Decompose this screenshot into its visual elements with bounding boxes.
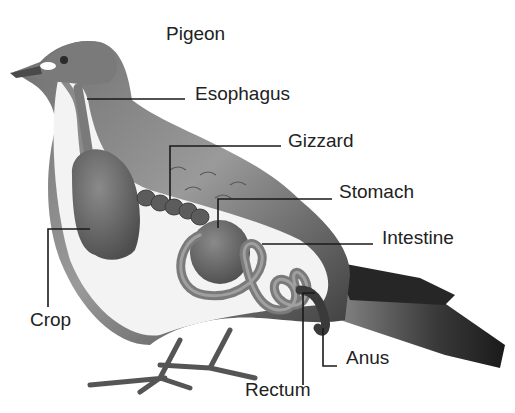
label-gizzard: Gizzard — [288, 131, 353, 150]
label-anus: Anus — [346, 348, 389, 367]
label-stomach: Stomach — [339, 182, 414, 201]
diagram-title: Pigeon — [166, 24, 225, 43]
pigeon-digestive-diagram: Pigeon Esophagus Gizzard Stomach Intesti… — [0, 0, 515, 413]
legs — [90, 330, 255, 392]
label-intestine: Intestine — [382, 228, 454, 247]
label-rectum: Rectum — [245, 380, 310, 399]
label-esophagus: Esophagus — [195, 84, 290, 103]
label-crop: Crop — [30, 310, 71, 329]
pigeon-illustration — [0, 0, 515, 413]
